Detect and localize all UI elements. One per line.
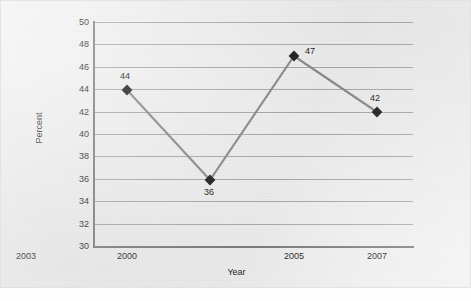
page-bottom-margin [0,288,471,301]
data-label-2005: 47 [305,46,315,56]
data-label-2003: 36 [204,187,214,197]
chart-figure: 50 48 46 44 42 40 38 36 34 32 30 2000 20… [0,0,471,288]
scanned-page: 50 48 46 44 42 40 38 36 34 32 30 2000 20… [0,0,471,301]
series-line [127,56,377,180]
series-graphic [1,1,471,288]
data-label-2007: 42 [370,93,380,103]
data-label-2000: 44 [120,71,130,81]
line-chart: 50 48 46 44 42 40 38 36 34 32 30 2000 20… [1,1,471,288]
